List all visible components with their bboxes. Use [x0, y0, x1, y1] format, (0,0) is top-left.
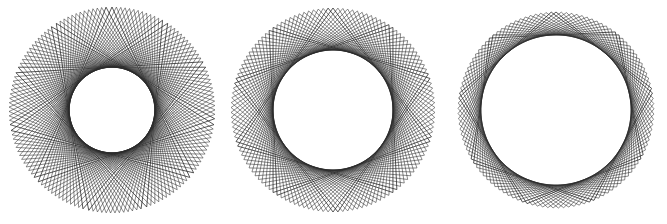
star-figures-canvas — [0, 0, 667, 224]
